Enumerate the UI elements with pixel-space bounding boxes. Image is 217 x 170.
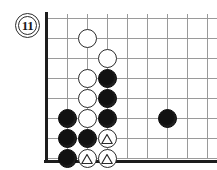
diagram-number-badge: 11 <box>15 13 40 38</box>
grid-line-horizontal-3 <box>47 78 217 79</box>
black-stone-c3r4[interactable] <box>98 89 117 108</box>
black-stone-c6r5[interactable] <box>158 109 177 128</box>
grid-line-vertical-4 <box>127 14 128 158</box>
white-stone-c2r7-triangle[interactable] <box>78 149 97 168</box>
grid-line-horizontal-0 <box>47 18 217 19</box>
grid-line-horizontal-2 <box>47 58 217 59</box>
board-edge-left <box>45 12 48 160</box>
diagram-number-label: 11 <box>22 19 33 32</box>
go-diagram-root: 11 <box>0 0 217 170</box>
grid-line-vertical-6 <box>167 14 168 158</box>
black-stone-c3r5[interactable] <box>98 109 117 128</box>
grid-line-horizontal-4 <box>47 98 217 99</box>
triangle-mark-icon <box>101 133 113 144</box>
white-stone-c3r2[interactable] <box>98 49 117 68</box>
black-stone-c1r7[interactable] <box>58 149 77 168</box>
white-stone-c3r6-triangle[interactable] <box>98 129 117 148</box>
black-stone-c1r6[interactable] <box>58 129 77 148</box>
white-stone-c2r3[interactable] <box>78 69 97 88</box>
grid-line-horizontal-1 <box>47 38 217 39</box>
black-stone-c2r6[interactable] <box>78 129 97 148</box>
grid-line-vertical-8 <box>207 14 208 158</box>
triangle-mark-icon <box>101 153 113 164</box>
white-stone-c2r1[interactable] <box>78 29 97 48</box>
triangle-mark-icon <box>81 153 93 164</box>
white-stone-c3r7-triangle[interactable] <box>98 149 117 168</box>
go-board[interactable] <box>47 18 207 158</box>
black-stone-c1r5[interactable] <box>58 109 77 128</box>
white-stone-c2r4[interactable] <box>78 89 97 108</box>
grid-line-vertical-5 <box>147 14 148 158</box>
grid-line-vertical-7 <box>187 14 188 158</box>
black-stone-c3r3[interactable] <box>98 69 117 88</box>
white-stone-c2r5[interactable] <box>78 109 97 128</box>
